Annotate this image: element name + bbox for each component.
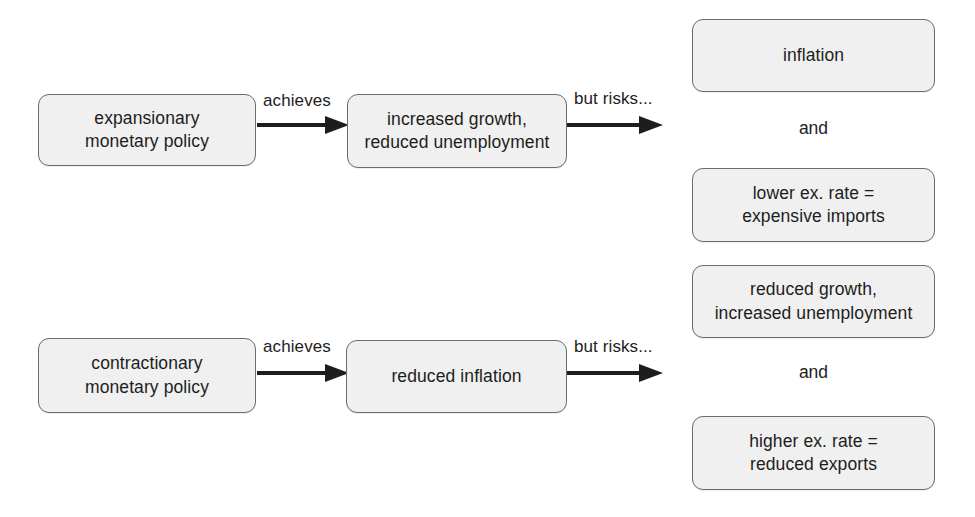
node-increased-growth[interactable]: increased growth, reduced unemployment [347, 94, 567, 168]
node-label: increased growth, reduced unemployment [357, 108, 558, 154]
node-label: higher ex. rate = reduced exports [741, 430, 886, 476]
node-inflation[interactable]: inflation [692, 19, 935, 92]
node-label: lower ex. rate = expensive imports [734, 182, 893, 228]
node-label: reduced inflation [383, 365, 529, 388]
node-label: inflation [775, 44, 852, 67]
node-label: expansionary monetary policy [77, 107, 217, 153]
joiner-and-bottom: and [692, 362, 935, 383]
arrow-reduced-inflation-to-risks [567, 361, 663, 385]
edge-label-achieves-bottom: achieves [263, 337, 331, 357]
node-expansionary-policy[interactable]: expansionary monetary policy [38, 94, 256, 166]
node-lower-ex-rate[interactable]: lower ex. rate = expensive imports [692, 168, 935, 242]
node-reduced-inflation[interactable]: reduced inflation [346, 340, 567, 413]
node-higher-ex-rate[interactable]: higher ex. rate = reduced exports [692, 416, 935, 490]
node-reduced-growth[interactable]: reduced growth, increased unemployment [692, 265, 935, 338]
node-label: contractionary monetary policy [77, 352, 217, 398]
arrow-contractionary-to-reduced-inflation [257, 361, 349, 385]
arrow-expansionary-to-growth [257, 113, 349, 137]
joiner-and-top: and [692, 118, 935, 139]
node-label: reduced growth, increased unemployment [707, 278, 921, 324]
arrow-growth-to-risks [567, 113, 663, 137]
edge-label-but-risks-top: but risks... [574, 89, 653, 109]
edge-label-achieves-top: achieves [263, 91, 331, 111]
node-contractionary-policy[interactable]: contractionary monetary policy [38, 338, 256, 413]
flowchart-canvas: expansionary monetary policy achieves in… [0, 0, 975, 517]
edge-label-but-risks-bottom: but risks... [574, 337, 653, 357]
